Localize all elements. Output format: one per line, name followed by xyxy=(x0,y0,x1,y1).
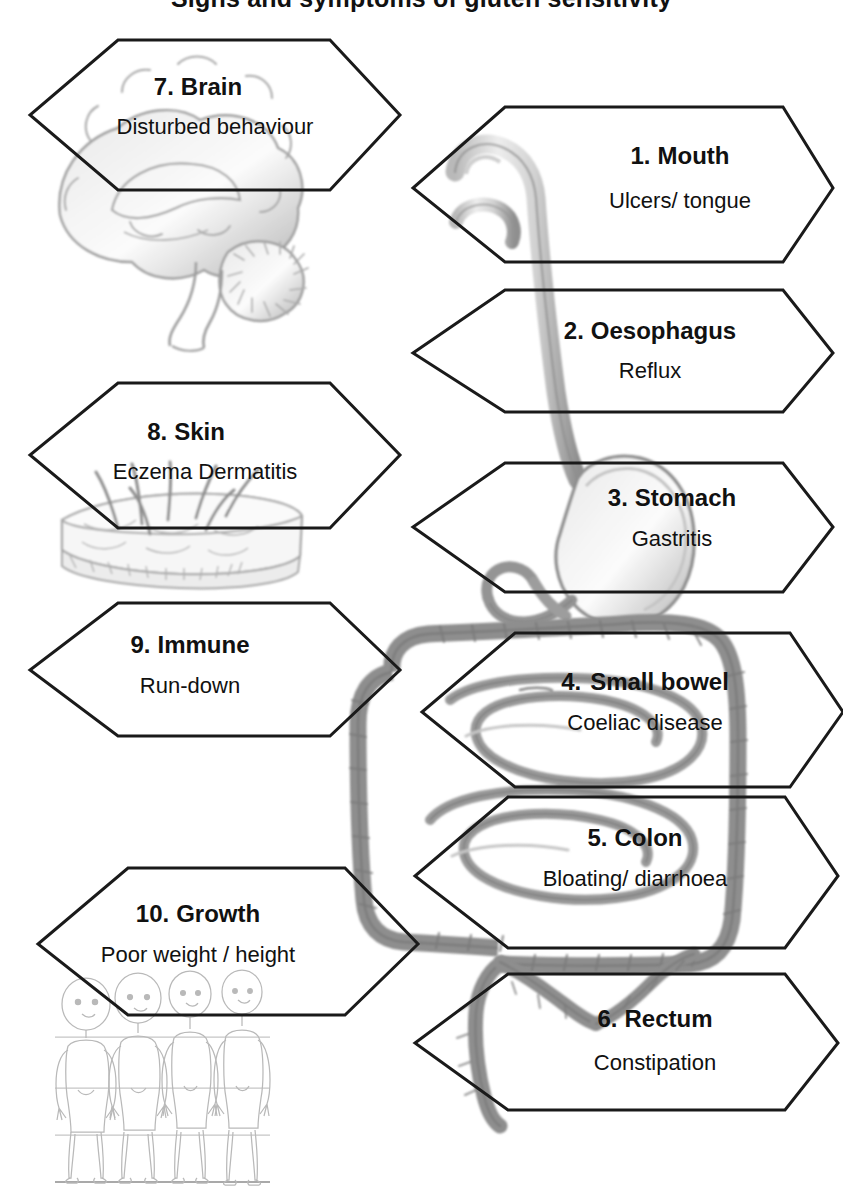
hexagon-immune[interactable] xyxy=(30,603,400,736)
callout-small-bowel-subtitle: Coeliac disease xyxy=(567,710,722,735)
callout-immune[interactable]: 9.Immune Run-down xyxy=(130,631,249,698)
callout-brain-subtitle: Disturbed behaviour xyxy=(117,114,314,139)
callout-mouth-subtitle: Ulcers/ tongue xyxy=(609,188,751,213)
callout-skin[interactable]: 8.Skin Eczema Dermatitis xyxy=(113,418,298,484)
callout-oesophagus[interactable]: 2.Oesophagus Reflux xyxy=(564,317,736,383)
callout-colon-title: 5.Colon xyxy=(588,824,683,851)
callout-rectum-subtitle: Constipation xyxy=(594,1050,716,1075)
callout-skin-subtitle: Eczema Dermatitis xyxy=(113,459,298,484)
diagram-canvas: Signs and symptoms of gluten sensitivity xyxy=(0,0,843,1201)
callout-growth[interactable]: 10.Growth Poor weight / height xyxy=(101,900,295,967)
callout-immune-subtitle: Run-down xyxy=(140,673,240,698)
brain-illustration xyxy=(59,57,308,351)
hexagon-mouth[interactable] xyxy=(413,107,833,262)
callout-mouth-title: 1.Mouth xyxy=(631,142,730,169)
callout-brain-title: 7.Brain xyxy=(154,73,242,100)
gluten-sensitivity-diagram: 1.Mouth Ulcers/ tongue 2.Oesophagus Refl… xyxy=(0,0,843,1201)
callout-stomach-title: 3.Stomach xyxy=(608,484,736,511)
callout-mouth[interactable]: 1.Mouth Ulcers/ tongue xyxy=(609,142,751,213)
callout-oesophagus-title: 2.Oesophagus xyxy=(564,317,736,344)
callout-rectum-title: 6.Rectum xyxy=(597,1005,712,1032)
callout-stomach-subtitle: Gastritis xyxy=(632,526,713,551)
callout-skin-title: 8.Skin xyxy=(147,418,225,445)
callout-brain[interactable]: 7.Brain Disturbed behaviour xyxy=(117,73,314,139)
growth-children-illustration xyxy=(55,970,270,1185)
callout-immune-title: 9.Immune xyxy=(130,631,249,658)
callout-growth-title: 10.Growth xyxy=(136,900,260,927)
callout-colon[interactable]: 5.Colon Bloating/ diarrhoea xyxy=(543,824,728,891)
hexagon-oesophagus[interactable] xyxy=(413,290,833,412)
callout-colon-subtitle: Bloating/ diarrhoea xyxy=(543,866,728,891)
callout-oesophagus-subtitle: Reflux xyxy=(619,358,681,383)
callout-rectum[interactable]: 6.Rectum Constipation xyxy=(594,1005,716,1075)
callout-growth-subtitle: Poor weight / height xyxy=(101,942,295,967)
